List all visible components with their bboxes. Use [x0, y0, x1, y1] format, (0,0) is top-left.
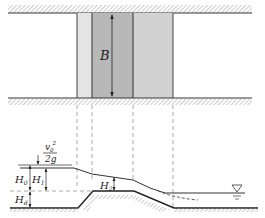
Hd-dimension: Hd	[14, 191, 31, 208]
H0-dimension: H0	[14, 165, 31, 191]
section-view: v02 2g H0 H1 Hd	[10, 140, 258, 212]
weir-body-hatch	[82, 195, 170, 212]
water-level-symbol	[232, 185, 242, 199]
top-wall-hatch	[8, 5, 252, 13]
zone-crest	[92, 13, 133, 98]
H2-dimension: H2	[99, 177, 115, 192]
svg-text:v02: v02	[45, 140, 57, 153]
svg-text:Hd: Hd	[14, 194, 28, 206]
water-surface	[20, 168, 245, 193]
velocity-head-label: v02 2g	[37, 140, 58, 165]
svg-text:H1: H1	[31, 174, 45, 186]
weir-diagram: B v02 2g	[0, 0, 265, 218]
zone-approach	[77, 13, 92, 98]
projection-lines	[77, 105, 173, 210]
svg-text:2g: 2g	[44, 154, 57, 164]
bottom-wall-hatch	[8, 98, 252, 105]
width-label: B	[99, 48, 110, 63]
svg-text:H0: H0	[14, 174, 28, 186]
H1-dimension: H1	[31, 168, 47, 191]
svg-text:H2: H2	[99, 180, 113, 192]
plan-view: B	[8, 5, 252, 105]
zone-downstream	[133, 13, 173, 98]
